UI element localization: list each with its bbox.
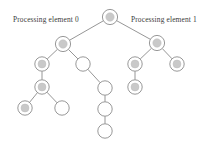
- tree-node-pe0-b: [76, 57, 90, 71]
- tree-edge: [47, 92, 57, 103]
- node-shaded-core: [38, 83, 46, 91]
- tree-node-pe0-e: [55, 101, 69, 115]
- tree-edge: [140, 48, 151, 59]
- tree-diagram-figure: Processing element 0 Processing element …: [0, 0, 209, 147]
- node-shaded-core: [21, 104, 29, 112]
- node-outline: [98, 81, 112, 95]
- node-shaded-core: [153, 39, 161, 47]
- node-outline: [55, 101, 69, 115]
- tree-node-pe0-c: [35, 80, 49, 94]
- node-shaded-core: [131, 60, 139, 68]
- tree-edge: [68, 49, 78, 59]
- node-shaded-core: [173, 60, 181, 68]
- tree-node-root: [102, 9, 117, 24]
- tree-edge: [47, 49, 57, 59]
- tree-node-pe0-root: [55, 36, 70, 51]
- tree-edge: [162, 49, 172, 59]
- tree-node-mid-b: [98, 102, 112, 116]
- node-layer: [18, 9, 184, 138]
- node-outline: [98, 102, 112, 116]
- processing-element-0-label: Processing element 0: [13, 15, 79, 24]
- tree-node-pe1-b: [170, 57, 184, 71]
- tree-edge: [30, 93, 38, 103]
- node-shaded-core: [106, 13, 114, 21]
- node-outline: [98, 124, 112, 138]
- tree-node-mid-a: [98, 81, 112, 95]
- node-shaded-core: [38, 60, 46, 68]
- tree-node-pe1-c: [128, 80, 142, 94]
- tree-node-pe0-a: [35, 57, 49, 71]
- processing-element-1-label: Processing element 1: [131, 15, 197, 24]
- tree-node-mid-c: [98, 124, 112, 138]
- tree-edge: [70, 21, 104, 40]
- node-shaded-core: [59, 40, 67, 48]
- tree-node-pe1-root: [149, 35, 164, 50]
- node-shaded-core: [131, 83, 139, 91]
- node-outline: [76, 57, 90, 71]
- tree-node-pe1-a: [128, 57, 142, 71]
- tree-edge: [88, 69, 100, 82]
- tree-node-pe0-d: [18, 101, 32, 115]
